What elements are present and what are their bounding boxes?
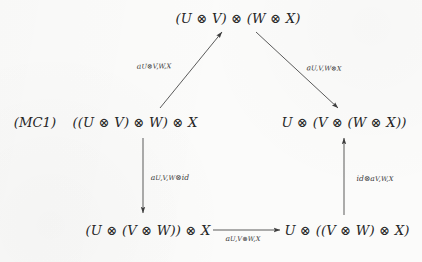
arrow-label-right-diagonal: aU,V,W⊗X <box>306 63 341 73</box>
arrow-label-right-vertical: id⊗aV,W,X <box>356 174 393 183</box>
label-prefix: id⊗ <box>356 174 370 183</box>
label-subscript: U,V⊗W,X <box>230 235 260 243</box>
label-subscript: U,V,W⊗X <box>311 64 342 73</box>
node-top: (U ⊗ V) ⊗ (W ⊗ X) <box>175 11 300 26</box>
label-subscript: U⊗V,W,X <box>141 62 171 71</box>
diagram-canvas: (MC1) (U ⊗ V) ⊗ (W ⊗ X) ((U ⊗ V) ⊗ W) ⊗ … <box>0 0 422 262</box>
equation-tag: (MC1) <box>14 115 56 130</box>
arrow-label-left-diagonal: aU⊗V,W,X <box>137 61 172 71</box>
label-subscript: V,W,X <box>375 175 394 183</box>
arrow-label-bottom-horizontal: aU,V⊗W,X <box>225 234 260 243</box>
node-left-mid: ((U ⊗ V) ⊗ W) ⊗ X <box>72 115 197 130</box>
node-bottom-right: U ⊗ ((V ⊗ W) ⊗ X) <box>284 223 409 238</box>
label-subscript: U,V,W <box>155 174 175 182</box>
arrow-label-left-vertical: aU,V,W⊗id <box>151 173 190 182</box>
node-bottom-left: (U ⊗ (V ⊗ W)) ⊗ X <box>85 223 210 238</box>
label-suffix: ⊗id <box>175 173 189 182</box>
node-right-mid: U ⊗ (V ⊗ (W ⊗ X)) <box>281 115 406 130</box>
